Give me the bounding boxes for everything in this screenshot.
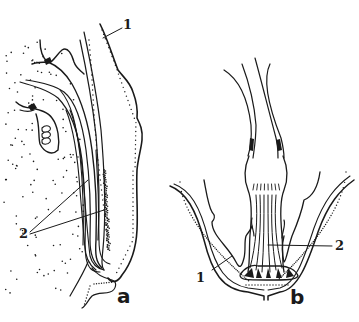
panel-a-callout-1: 1 (123, 17, 132, 32)
panel-b-label: b (290, 285, 304, 309)
panel-b-drawing (0, 0, 359, 322)
panel-a-label: a (117, 284, 131, 308)
panel-a-callout-2: 2 (19, 226, 28, 241)
panel-b-callout-2: 2 (335, 238, 344, 253)
panel-b-callout-1: 1 (196, 270, 205, 285)
anatomical-figure: 1 2 a 1 2 b (0, 0, 359, 322)
